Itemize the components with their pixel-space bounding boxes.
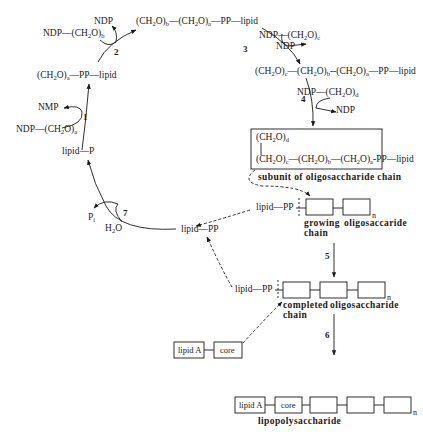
step7-input-h2o: H2O [105,224,122,234]
step-6-number: 6 [325,331,330,340]
lps-n: n [413,409,417,417]
step-7-number: 7 [123,209,128,218]
lps-core: core [281,401,296,410]
step-1-number: 1 [83,113,88,122]
pathway-lines [0,0,423,432]
step-4-number: 4 [301,95,306,104]
step-3-number: 3 [243,45,248,54]
completed-label-3: oligosaccharide [330,301,399,311]
subunit-caption: subunit of oligosaccharide chain [258,173,401,183]
intermediate-cba-pp-lipid: (CH2O)c—(CH2O)b--(CH2O)a—PP—lipid [255,67,416,77]
completed-label-2: chain [283,311,307,321]
growing-label-3: oligosaccaride [344,219,407,229]
step7-output-pi: Pi [88,213,95,223]
growing-lipid-pp: lipid—PP [256,203,294,213]
step3-input: NDP—(CH2O)c [259,31,320,41]
lipid-a-box: lipid A [178,346,201,355]
intermediate-a-pp-lipid: (CH2O)a—PP—lipid [37,71,117,81]
pathway-diagram: NDP NDP—(CH2O)b 2 (CH2O)a—PP—lipid NMP 1… [0,0,423,432]
central-lipid-pp: lipid—PP [181,225,219,235]
step2-output-ndp: NDP [94,17,113,27]
subunit-chain: (CH2O)c—(CH2O)b—(CH2O)a-PP—lipid [256,155,414,165]
subunit-d-branch: (CH2O)d [256,133,289,143]
completed-lipid-pp: lipid—PP [235,285,273,295]
step2-input: NDP—(CH2O)b [43,29,104,39]
step4-output-ndp: NDP [336,106,355,116]
core-box: core [220,346,235,355]
step4-input: NDP—(CH2O)d [297,88,358,98]
lps-caption: lipopolysaccharide [258,417,341,427]
step1-output-nmp: NMP [38,103,59,113]
lps-lipid-a: lipid A [239,401,262,410]
step-5-number: 5 [325,252,330,261]
lipid-p: lipid—P [62,147,94,157]
intermediate-ba-pp-lipid: (CH2O)b—(CH2O)a—PP—lipid [136,17,258,27]
step-2-number: 2 [114,48,119,57]
step1-input: NDP—(CH2O)a [16,125,77,135]
step3-output-ndp: NDP [276,42,295,52]
growing-label-2: chain [304,229,328,239]
